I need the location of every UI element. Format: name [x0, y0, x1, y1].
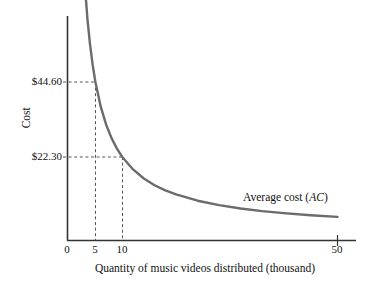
curve-label-suffix: ) [324, 191, 328, 203]
curve-label-prefix: Average cost ( [243, 191, 309, 203]
y-axis-title: Cost [21, 85, 33, 151]
x-axis-tick-label-5: 5 [85, 244, 105, 255]
average-cost-curve [82, 0, 337, 217]
x-axis-title: Quantity of music videos distributed (th… [60, 263, 350, 275]
y-axis-tick-label-2230: $22.30 [2, 151, 62, 162]
chart-plot-area [0, 0, 371, 283]
curve-label: Average cost (AC) [243, 192, 328, 204]
x-axis-tick-label-0: 0 [57, 244, 77, 255]
x-axis-tick-label-10: 10 [112, 244, 132, 255]
x-axis-tick-label-50: 50 [327, 244, 347, 255]
curve-label-italic: AC [309, 191, 324, 203]
average-cost-chart: $44.60 $22.30 Cost 0 5 10 50 Quantity of… [0, 0, 371, 283]
